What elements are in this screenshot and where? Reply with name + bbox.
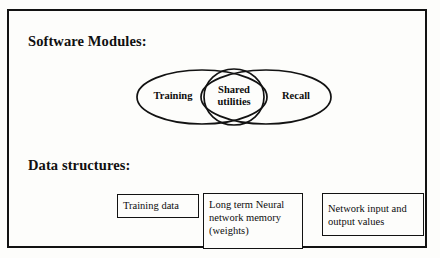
diagram-page: Software Modules: Training Shared utilit… [0,0,440,258]
software-modules-heading: Software Modules: [28,33,147,50]
data-structure-box-network-io-values: Network input and output values [322,193,424,236]
data-structure-box-line: (weights) [209,224,297,237]
data-structure-box-training-data: Training data [117,194,199,218]
data-structure-box-line: Long term Neural [209,198,297,211]
data-structure-box-line: Training data [123,199,193,212]
venn-label-recall: Recall [260,90,332,102]
data-structure-box-line: network memory [209,211,297,224]
data-structure-box-long-term-memory: Long term Neural network memory (weights… [203,193,303,249]
data-structure-box-line: output values [328,215,418,228]
data-structure-box-line: Network input and [328,202,418,215]
venn-label-shared-line-2: utilities [217,96,250,107]
venn-diagram: Training Shared utilities Recall [129,61,339,133]
venn-label-shared-line-1: Shared [218,84,250,95]
data-structures-heading: Data structures: [28,157,130,174]
diagram-outer-frame: Software Modules: Training Shared utilit… [7,9,427,248]
